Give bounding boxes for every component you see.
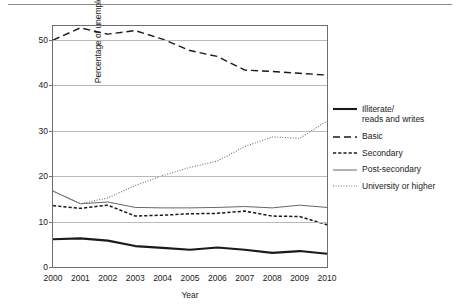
legend-item[interactable]: Basic xyxy=(333,131,457,145)
x-tick-label: 2003 xyxy=(126,273,145,283)
y-tick-label: 0 xyxy=(43,262,48,272)
legend-line-swatch xyxy=(333,147,357,159)
legend-item[interactable]: Illiterate/ reads and writes xyxy=(333,103,457,128)
x-tick-label: 2007 xyxy=(235,273,254,283)
y-tick-mark xyxy=(49,40,53,41)
legend-line-swatch xyxy=(333,164,357,176)
legend-item[interactable]: Post-secondary xyxy=(333,164,457,178)
series-line-basic xyxy=(53,28,327,75)
legend-label: University or higher xyxy=(362,181,435,192)
x-tick-label: 2001 xyxy=(71,273,90,283)
gridline-y xyxy=(53,131,327,132)
legend-item[interactable]: University or higher xyxy=(333,180,457,194)
gridline-y xyxy=(53,222,327,223)
gridline-y xyxy=(53,40,327,41)
legend-label: Illiterate/ reads and writes xyxy=(362,104,424,125)
x-tick-label: 2004 xyxy=(153,273,172,283)
y-tick-mark xyxy=(49,85,53,86)
x-tick-label: 2005 xyxy=(181,273,200,283)
gridline-y xyxy=(53,176,327,177)
y-tick-label: 40 xyxy=(39,80,48,90)
y-tick-label: 20 xyxy=(39,171,48,181)
x-tick-label: 2009 xyxy=(290,273,309,283)
series-line-illiterate xyxy=(53,238,327,253)
legend-item[interactable]: Secondary xyxy=(333,147,457,161)
x-tick-label: 2000 xyxy=(44,273,63,283)
y-tick-mark xyxy=(49,131,53,132)
series-line-university-or-higher xyxy=(53,121,327,204)
chart-legend: Illiterate/ reads and writesBasicSeconda… xyxy=(333,103,457,197)
x-tick-label: 2006 xyxy=(208,273,227,283)
legend-line-swatch xyxy=(333,103,357,115)
x-axis-title: Year xyxy=(52,290,328,300)
series-layer xyxy=(53,26,329,269)
legend-label: Basic xyxy=(362,131,383,142)
y-tick-mark xyxy=(49,176,53,177)
y-tick-label: 30 xyxy=(39,126,48,136)
header-divider xyxy=(8,4,452,5)
legend-line-swatch xyxy=(333,180,357,192)
legend-line-swatch xyxy=(333,131,357,143)
y-tick-mark xyxy=(49,222,53,223)
y-tick-mark xyxy=(49,267,53,268)
series-line-post-secondary xyxy=(53,191,327,208)
gridline-y xyxy=(53,85,327,86)
x-tick-label: 2010 xyxy=(318,273,337,283)
legend-label: Secondary xyxy=(362,148,403,159)
plot-area: 0102030405020002001200220032004200520062… xyxy=(52,25,328,268)
legend-label: Post-secondary xyxy=(362,164,421,175)
chart-figure: Percentage of unemployed Year 0102030405… xyxy=(0,0,459,308)
y-tick-label: 50 xyxy=(39,35,48,45)
x-tick-label: 2002 xyxy=(98,273,117,283)
y-tick-label: 10 xyxy=(39,217,48,227)
x-tick-label: 2008 xyxy=(263,273,282,283)
